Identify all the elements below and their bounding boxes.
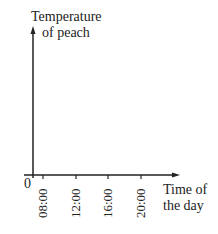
y-axis-arrow-icon xyxy=(31,26,36,34)
x-tick-label: 12:00 xyxy=(68,188,84,218)
y-axis-label-line1: Temperature xyxy=(31,9,102,25)
x-tick-label: 16:00 xyxy=(100,188,116,218)
x-tick-label: 20:00 xyxy=(133,188,149,218)
x-axis-label-line2: the day xyxy=(163,198,204,214)
y-axis-label-line2: of peach xyxy=(42,25,90,41)
x-axis-label-line1: Time of xyxy=(163,182,207,198)
x-axis-arrow-icon xyxy=(172,173,180,178)
x-tick-label: 08:00 xyxy=(35,188,51,218)
origin-label: 0 xyxy=(24,176,31,192)
